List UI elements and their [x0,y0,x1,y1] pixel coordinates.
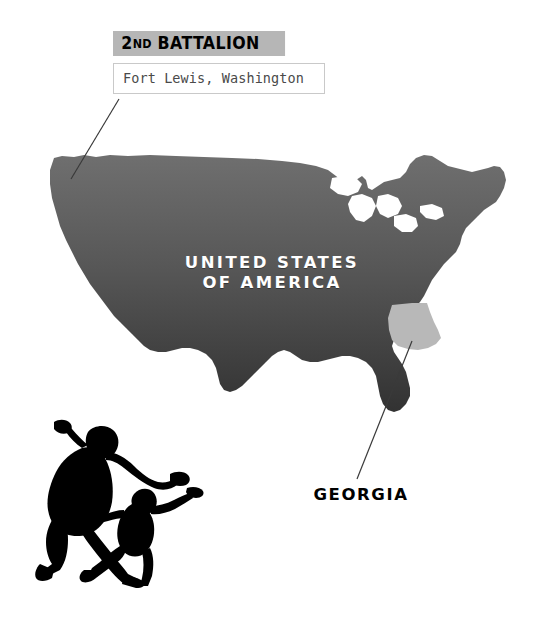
poster-canvas: UNITED STATES OF AMERICA 2ND BATTALION F… [0,0,544,620]
battalion-callout: 2ND BATTALION Fort Lewis, Washington [113,31,325,56]
soldier-silhouettes [24,418,214,590]
map-caption: UNITED STATES OF AMERICA [0,253,544,293]
battalion-title-ordinal: ND [133,37,152,51]
battalion-location: Fort Lewis, Washington [113,63,325,94]
map-caption-line-2: OF AMERICA [0,273,544,293]
georgia-state-highlight [388,303,441,350]
battalion-title-rest: BATTALION [152,33,260,53]
battalion-title-number: 2 [121,33,132,53]
soldier-silhouettes-svg [24,418,214,590]
map-caption-line-1: UNITED STATES [185,253,359,272]
georgia-label: GEORGIA [300,485,422,504]
battalion-title: 2ND BATTALION [113,31,285,56]
